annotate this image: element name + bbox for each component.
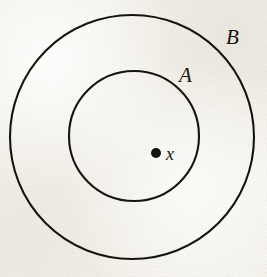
inner-circle-a: [69, 71, 199, 201]
label-outer-circle-b: B: [226, 27, 239, 48]
outer-circle-b: [10, 15, 254, 259]
label-inner-circle-a: A: [179, 65, 192, 86]
point-marker-x: [151, 148, 161, 158]
nested-circles-figure: B A x: [0, 0, 267, 277]
label-point-x: x: [166, 145, 174, 163]
